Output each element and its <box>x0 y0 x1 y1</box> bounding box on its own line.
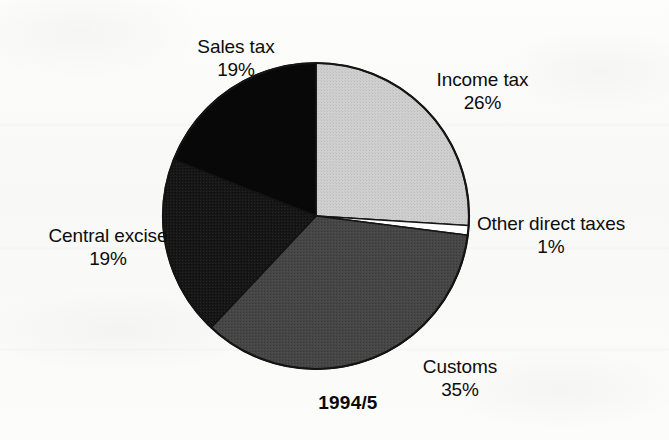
slice-label-sales-tax-name: Sales tax <box>161 35 311 58</box>
slice-label-other-direct-taxes-name: Other direct taxes <box>443 212 659 235</box>
slice-label-other-direct-taxes: Other direct taxes 1% <box>443 212 659 258</box>
slice-label-sales-tax-value: 19% <box>161 58 311 81</box>
slice-label-income-tax-name: Income tax <box>395 68 570 91</box>
slice-label-central-excise-name: Central excise <box>18 224 198 247</box>
slice-label-income-tax-value: 26% <box>395 91 570 114</box>
pie-chart-figure: Sales tax 19% Income tax 26% Other direc… <box>0 0 669 440</box>
slice-label-other-direct-taxes-value: 1% <box>443 235 659 258</box>
slice-label-customs-name: Customs <box>390 355 530 378</box>
slice-label-customs: Customs 35% <box>390 355 530 401</box>
chart-title: 1994/5 <box>288 392 408 414</box>
slice-label-sales-tax: Sales tax 19% <box>161 35 311 81</box>
slice-label-central-excise-value: 19% <box>18 247 198 270</box>
slice-label-central-excise: Central excise 19% <box>18 224 198 270</box>
slice-label-customs-value: 35% <box>390 378 530 401</box>
slice-label-income-tax: Income tax 26% <box>395 68 570 114</box>
